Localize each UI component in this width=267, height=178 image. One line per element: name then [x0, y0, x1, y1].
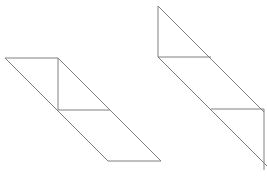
- line-drawing: [0, 0, 267, 178]
- right-parallelogram-long-diagonal: [158, 6, 264, 112]
- right-parallelogram-figure: [158, 6, 267, 170]
- left-parallelogram-figure: [5, 58, 161, 161]
- figure-canvas: [0, 0, 267, 178]
